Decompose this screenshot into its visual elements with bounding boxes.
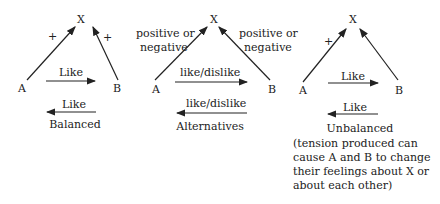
note-line4: about each other) <box>293 180 392 192</box>
b-to-a-label: Like <box>343 102 367 114</box>
b-to-a-label: like/dislike <box>186 98 246 110</box>
edge-ax-label-line2: negative <box>140 42 188 54</box>
node-a: A <box>152 84 160 96</box>
note-line1: (tension produced can <box>293 138 418 150</box>
edge-bx-label-line2: negative <box>244 42 292 54</box>
note-line2: cause A and B to change <box>293 152 431 164</box>
a-to-b-label: Like <box>341 71 365 83</box>
node-a: A <box>299 85 307 97</box>
note-line3: their feelings about X or <box>293 166 429 178</box>
caption: Alternatives <box>170 120 250 133</box>
node-b: B <box>395 85 403 97</box>
node-b: B <box>268 84 276 96</box>
a-to-b-label: Like <box>59 67 83 79</box>
node-x: X <box>349 14 357 26</box>
b-to-a-label: Like <box>62 99 86 111</box>
caption: Unbalanced <box>310 122 410 135</box>
node-a: A <box>18 83 26 95</box>
edge-ax-sign: + <box>48 31 57 43</box>
edge-bx-label-line1: positive or <box>239 28 298 40</box>
edge-ax-sign: + <box>324 36 333 48</box>
caption: Balanced <box>40 118 110 131</box>
a-to-b-label: like/dislike <box>180 67 240 79</box>
node-x: X <box>77 14 85 26</box>
node-b: B <box>113 83 121 95</box>
node-x: X <box>210 14 218 26</box>
edge-bx-sign: + <box>103 32 112 44</box>
edge-ax-label-line1: positive or <box>136 28 195 40</box>
